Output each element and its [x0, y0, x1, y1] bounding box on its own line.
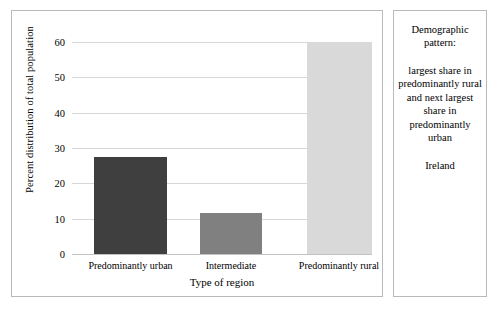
ytick-label-40: 40	[55, 107, 66, 118]
ytick-label-0: 0	[60, 249, 65, 260]
bar-predominantly-rural[interactable]	[307, 42, 372, 254]
y-axis-title: Percent distribution of total population	[24, 10, 35, 210]
ytick-label-60: 60	[55, 37, 66, 48]
chart-panel: Percent distribution of total population…	[11, 10, 383, 297]
note-heading-line1: Demographic	[411, 24, 468, 35]
xtick-label-predominantly-rural: Predominantly rural	[299, 260, 379, 271]
note-panel: Demographic pattern: largest share in pr…	[393, 10, 487, 297]
note-body: largest share in predominantly rural and…	[398, 64, 482, 145]
ytick-label-30: 30	[55, 143, 66, 154]
bar-predominantly-urban[interactable]	[94, 157, 167, 254]
bar-intermediate[interactable]	[200, 213, 262, 254]
ytick-label-50: 50	[55, 72, 66, 83]
gridline-0	[72, 254, 372, 255]
note-heading-line2: pattern:	[424, 37, 456, 48]
plot-area: 60 50 40 30 20 10 0 Predominantly urban …	[72, 42, 372, 254]
xtick-label-intermediate: Intermediate	[206, 260, 257, 271]
x-axis-title: Type of region	[72, 276, 372, 288]
ytick-label-20: 20	[55, 178, 66, 189]
xtick-label-predominantly-urban: Predominantly urban	[88, 260, 172, 271]
note-country: Ireland	[398, 159, 482, 172]
ytick-label-10: 10	[55, 213, 66, 224]
note-heading: Demographic pattern:	[398, 23, 482, 50]
